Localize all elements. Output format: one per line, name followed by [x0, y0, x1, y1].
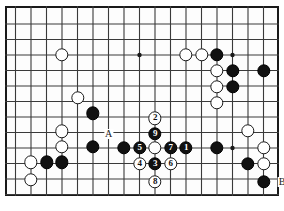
- point-label-a: A: [104, 129, 113, 139]
- point-label-b: B: [278, 177, 284, 187]
- label-layer: AB: [0, 0, 284, 211]
- go-diagram-figure: 295714368 AB: [0, 0, 284, 211]
